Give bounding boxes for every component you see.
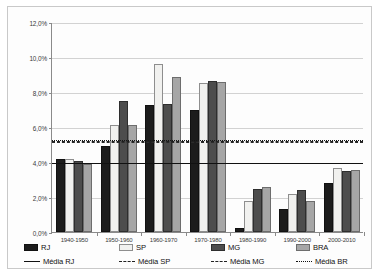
bar-bra[interactable] bbox=[83, 164, 92, 232]
legend-label: RJ bbox=[41, 243, 50, 252]
legend-row-averages: Média RJMédia SPMédia MGMédia BR bbox=[24, 257, 362, 266]
bar-sp[interactable] bbox=[65, 159, 74, 232]
bar-sp[interactable] bbox=[288, 194, 297, 233]
bar-rj[interactable] bbox=[56, 159, 65, 232]
legend-swatch-icon bbox=[296, 244, 310, 251]
x-axis-tick-mark bbox=[186, 232, 187, 236]
average-line-rj bbox=[52, 163, 363, 164]
bar-group-bars bbox=[97, 23, 142, 232]
x-axis-tick-mark bbox=[141, 232, 142, 236]
x-axis-tick-mark bbox=[275, 232, 276, 236]
bar-mg[interactable] bbox=[163, 104, 172, 232]
bar-mg[interactable] bbox=[119, 101, 128, 232]
legend-item-média-rj[interactable]: Média RJ bbox=[24, 257, 119, 266]
chart-legend: RJSPMGBRA Média RJMédia SPMédia MGMédia … bbox=[24, 243, 362, 273]
y-axis-tick-label: 6,0% bbox=[9, 125, 47, 132]
bar-group-bars bbox=[230, 23, 275, 232]
bar-rj[interactable] bbox=[324, 183, 333, 232]
x-axis-tick-mark bbox=[230, 232, 231, 236]
bar-mg[interactable] bbox=[342, 171, 351, 232]
legend-item-média-mg[interactable]: Média MG bbox=[211, 257, 296, 266]
bar-mg[interactable] bbox=[297, 190, 306, 232]
legend-label: Média BR bbox=[315, 257, 348, 266]
x-axis-tick-mark bbox=[364, 232, 365, 236]
legend-row-series: RJSPMGBRA bbox=[24, 243, 362, 252]
chart-container: 12,0%10,0%8,0%6,0%4,0%2,0%0,0%1940-19501… bbox=[7, 6, 372, 269]
bar-group bbox=[186, 23, 231, 232]
bar-group-bars bbox=[186, 23, 231, 232]
bar-sp[interactable] bbox=[333, 168, 342, 232]
legend-item-bra[interactable]: BRA bbox=[296, 243, 362, 252]
legend-line-icon bbox=[296, 261, 312, 262]
x-axis-tick-mark bbox=[319, 232, 320, 236]
legend-label: Média MG bbox=[230, 257, 264, 266]
bar-sp[interactable] bbox=[199, 83, 208, 232]
bar-rj[interactable] bbox=[235, 228, 244, 232]
bar-mg[interactable] bbox=[74, 161, 83, 232]
legend-swatch-icon bbox=[211, 244, 225, 251]
legend-label: SP bbox=[136, 243, 146, 252]
bar-group bbox=[141, 23, 186, 232]
average-line-sp bbox=[52, 142, 363, 143]
legend-line-icon bbox=[119, 261, 135, 262]
bar-mg[interactable] bbox=[253, 189, 262, 232]
bar-group-bars bbox=[52, 23, 97, 232]
bar-group bbox=[97, 23, 142, 232]
bar-bra[interactable] bbox=[306, 201, 315, 232]
legend-line-icon bbox=[24, 261, 40, 262]
bar-group-bars bbox=[141, 23, 186, 232]
legend-item-sp[interactable]: SP bbox=[119, 243, 211, 252]
bar-bra[interactable] bbox=[217, 82, 226, 232]
average-line-br bbox=[52, 140, 363, 141]
y-axis-tick-label: 8,0% bbox=[9, 90, 47, 97]
average-line-mg bbox=[52, 141, 363, 142]
y-axis-tick-mark bbox=[49, 233, 52, 234]
bar-bra[interactable] bbox=[262, 187, 271, 233]
legend-label: BRA bbox=[313, 243, 328, 252]
legend-item-rj[interactable]: RJ bbox=[24, 243, 119, 252]
bar-group bbox=[52, 23, 97, 232]
x-axis-tick-mark bbox=[97, 232, 98, 236]
bar-bra[interactable] bbox=[172, 77, 181, 232]
legend-swatch-icon bbox=[24, 244, 38, 251]
bar-rj[interactable] bbox=[190, 110, 199, 233]
legend-item-média-sp[interactable]: Média SP bbox=[119, 257, 211, 266]
bar-sp[interactable] bbox=[244, 201, 253, 232]
legend-swatch-icon bbox=[119, 244, 133, 251]
bar-rj[interactable] bbox=[279, 209, 288, 232]
y-axis-tick-label: 2,0% bbox=[9, 195, 47, 202]
plot-area: 12,0%10,0%8,0%6,0%4,0%2,0%0,0%1940-19501… bbox=[51, 23, 363, 233]
bar-group-bars bbox=[275, 23, 320, 232]
bar-group bbox=[230, 23, 275, 232]
bar-group bbox=[275, 23, 320, 232]
legend-item-média-br[interactable]: Média BR bbox=[296, 257, 362, 266]
legend-label: MG bbox=[228, 243, 240, 252]
bar-group-bars bbox=[319, 23, 364, 232]
bar-bra[interactable] bbox=[351, 170, 360, 232]
legend-item-mg[interactable]: MG bbox=[211, 243, 296, 252]
bar-rj[interactable] bbox=[101, 146, 110, 232]
bar-rj[interactable] bbox=[145, 105, 154, 232]
y-axis-tick-label: 0,0% bbox=[9, 230, 47, 237]
legend-label: Média RJ bbox=[43, 257, 74, 266]
bar-group bbox=[319, 23, 364, 232]
legend-line-icon bbox=[211, 261, 227, 262]
y-axis-tick-label: 4,0% bbox=[9, 160, 47, 167]
bar-mg[interactable] bbox=[208, 81, 217, 232]
bar-sp[interactable] bbox=[154, 64, 163, 232]
y-axis-tick-label: 10,0% bbox=[9, 55, 47, 62]
legend-label: Média SP bbox=[138, 257, 170, 266]
y-axis-tick-label: 12,0% bbox=[9, 20, 47, 27]
